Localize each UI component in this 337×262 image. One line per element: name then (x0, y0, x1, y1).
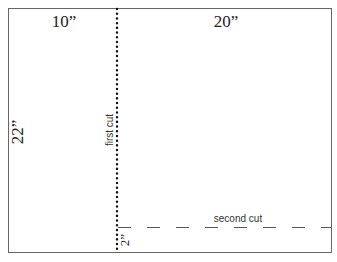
strip-height-label: 2” (117, 234, 132, 247)
sheet-outline (9, 9, 332, 253)
first-cut-label: first cut (104, 114, 115, 146)
second-cut-label: second cut (214, 213, 263, 224)
right-width-label: 20” (214, 12, 239, 31)
height-label: 22” (8, 120, 27, 145)
left-width-label: 10” (52, 12, 77, 31)
cutting-diagram: 10” 20” 22” first cut second cut 2” (0, 0, 337, 262)
